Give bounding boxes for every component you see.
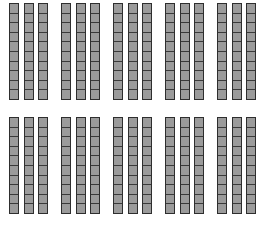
unit-cell bbox=[62, 176, 70, 186]
unit-cell bbox=[91, 166, 99, 176]
unit-cell bbox=[25, 118, 33, 128]
unit-cell bbox=[166, 118, 174, 128]
unit-cell bbox=[10, 4, 18, 14]
unit-cell bbox=[195, 33, 203, 43]
unit-cell bbox=[39, 71, 47, 81]
unit-cell bbox=[39, 4, 47, 14]
unit-cell bbox=[114, 33, 122, 43]
unit-cell bbox=[25, 33, 33, 43]
unit-cell bbox=[10, 81, 18, 91]
unit-cell bbox=[39, 204, 47, 213]
ten-rod bbox=[217, 117, 227, 214]
ten-rod bbox=[9, 3, 19, 100]
rod-group bbox=[9, 117, 51, 215]
unit-cell bbox=[62, 128, 70, 138]
unit-cell bbox=[143, 185, 151, 195]
unit-cell bbox=[91, 185, 99, 195]
unit-cell bbox=[247, 90, 255, 99]
unit-cell bbox=[10, 42, 18, 52]
unit-cell bbox=[129, 4, 137, 14]
unit-cell bbox=[195, 62, 203, 72]
unit-cell bbox=[233, 90, 241, 99]
unit-cell bbox=[77, 195, 85, 205]
unit-cell bbox=[166, 71, 174, 81]
unit-cell bbox=[247, 14, 255, 24]
ten-rod bbox=[217, 3, 227, 100]
unit-cell bbox=[181, 62, 189, 72]
unit-cell bbox=[247, 166, 255, 176]
unit-cell bbox=[218, 33, 226, 43]
unit-cell bbox=[62, 71, 70, 81]
unit-cell bbox=[25, 81, 33, 91]
unit-cell bbox=[62, 90, 70, 99]
unit-cell bbox=[39, 62, 47, 72]
unit-cell bbox=[195, 14, 203, 24]
unit-cell bbox=[91, 90, 99, 99]
unit-cell bbox=[218, 166, 226, 176]
unit-cell bbox=[39, 90, 47, 99]
unit-cell bbox=[10, 128, 18, 138]
unit-cell bbox=[39, 147, 47, 157]
unit-cell bbox=[10, 166, 18, 176]
unit-cell bbox=[195, 118, 203, 128]
unit-cell bbox=[195, 185, 203, 195]
unit-cell bbox=[247, 71, 255, 81]
unit-cell bbox=[143, 4, 151, 14]
unit-cell bbox=[114, 147, 122, 157]
unit-cell bbox=[114, 156, 122, 166]
rod-group bbox=[165, 117, 207, 215]
unit-cell bbox=[181, 14, 189, 24]
unit-cell bbox=[233, 156, 241, 166]
unit-cell bbox=[166, 33, 174, 43]
ten-rod bbox=[246, 3, 256, 100]
unit-cell bbox=[166, 147, 174, 157]
unit-cell bbox=[114, 118, 122, 128]
unit-cell bbox=[218, 52, 226, 62]
unit-cell bbox=[39, 52, 47, 62]
unit-cell bbox=[195, 204, 203, 213]
ten-rod bbox=[113, 3, 123, 100]
unit-cell bbox=[114, 42, 122, 52]
unit-cell bbox=[166, 81, 174, 91]
rod-group bbox=[217, 3, 259, 101]
unit-cell bbox=[247, 185, 255, 195]
ten-rod bbox=[76, 3, 86, 100]
unit-cell bbox=[129, 176, 137, 186]
unit-cell bbox=[166, 166, 174, 176]
unit-cell bbox=[91, 33, 99, 43]
unit-cell bbox=[181, 81, 189, 91]
rod-group bbox=[61, 117, 103, 215]
unit-cell bbox=[77, 4, 85, 14]
unit-cell bbox=[218, 137, 226, 147]
ten-rod bbox=[194, 117, 204, 214]
unit-cell bbox=[195, 166, 203, 176]
ten-rod bbox=[165, 3, 175, 100]
unit-cell bbox=[129, 33, 137, 43]
unit-cell bbox=[247, 81, 255, 91]
unit-cell bbox=[114, 71, 122, 81]
unit-cell bbox=[181, 166, 189, 176]
unit-cell bbox=[233, 33, 241, 43]
unit-cell bbox=[91, 128, 99, 138]
unit-cell bbox=[143, 176, 151, 186]
unit-cell bbox=[10, 118, 18, 128]
unit-cell bbox=[181, 195, 189, 205]
unit-cell bbox=[218, 176, 226, 186]
unit-cell bbox=[247, 128, 255, 138]
unit-cell bbox=[25, 71, 33, 81]
unit-cell bbox=[10, 33, 18, 43]
unit-cell bbox=[233, 128, 241, 138]
unit-cell bbox=[91, 42, 99, 52]
unit-cell bbox=[91, 14, 99, 24]
unit-cell bbox=[181, 176, 189, 186]
ten-rod bbox=[61, 117, 71, 214]
unit-cell bbox=[181, 90, 189, 99]
unit-cell bbox=[62, 166, 70, 176]
unit-cell bbox=[10, 52, 18, 62]
unit-cell bbox=[233, 166, 241, 176]
unit-cell bbox=[25, 204, 33, 213]
unit-cell bbox=[114, 4, 122, 14]
unit-cell bbox=[114, 128, 122, 138]
ten-rod bbox=[165, 117, 175, 214]
unit-cell bbox=[143, 33, 151, 43]
